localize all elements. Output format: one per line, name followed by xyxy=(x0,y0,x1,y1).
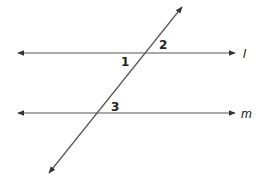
parallel-lines-diagram: l m 1 2 3 xyxy=(0,0,262,182)
angle-2-label: 2 xyxy=(159,38,167,52)
angle-3-label: 3 xyxy=(111,100,119,114)
transversal-line xyxy=(49,7,182,173)
diagram-canvas: l m 1 2 3 xyxy=(0,0,262,182)
angle-1-label: 1 xyxy=(121,55,129,69)
line-l-label: l xyxy=(243,46,247,61)
line-m-label: m xyxy=(241,106,252,121)
